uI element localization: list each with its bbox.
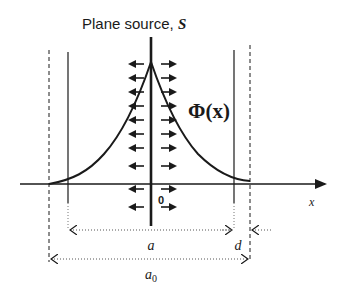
dimension-a-label: a xyxy=(148,238,155,253)
plane-source-label: Plane source, S xyxy=(82,15,186,32)
origin-label: 0 xyxy=(158,194,164,206)
x-axis-label: x xyxy=(308,195,315,209)
dimension-d-label: d xyxy=(235,238,243,253)
flux-curve xyxy=(49,62,250,184)
plane-source-diagram: Plane source, S x xyxy=(0,0,340,292)
dimension-a0-label: a0 xyxy=(145,267,157,284)
flux-label: Φ(x) xyxy=(188,99,230,123)
right-current-arrows xyxy=(161,64,175,207)
